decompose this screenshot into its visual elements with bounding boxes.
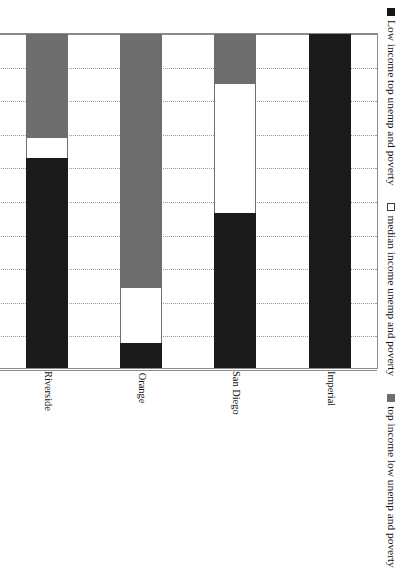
legend-swatch-gray-icon bbox=[387, 394, 395, 402]
segment-white bbox=[120, 288, 162, 344]
category-label-orange: Orange bbox=[137, 371, 148, 405]
bar-san-diego bbox=[214, 34, 256, 368]
segment-black bbox=[26, 158, 68, 368]
bar-riverside bbox=[26, 34, 68, 368]
legend-item-median-income: median income unemp and poverty bbox=[385, 203, 396, 376]
segment-gray bbox=[26, 34, 68, 138]
stacked-bar-chart-figure: Low income top unemp and poverty median … bbox=[0, 0, 406, 571]
segment-gray bbox=[214, 34, 256, 84]
rotated-figure-canvas: Low income top unemp and poverty median … bbox=[0, 0, 406, 571]
segment-black bbox=[309, 34, 351, 368]
legend-label-low-income: Low income top unemp and poverty bbox=[385, 20, 396, 185]
chart-legend: Low income top unemp and poverty median … bbox=[382, 8, 400, 564]
segment-gray bbox=[120, 34, 162, 288]
segment-white bbox=[214, 84, 256, 213]
segment-black bbox=[120, 343, 162, 368]
y-axis-category-labels: ImperialSan DiegoOrangeRiversideSo Cal bbox=[0, 371, 378, 405]
legend-item-low-income: Low income top unemp and poverty bbox=[385, 8, 396, 185]
bar-group bbox=[0, 34, 377, 368]
segment-black bbox=[214, 213, 256, 368]
plot-area bbox=[0, 33, 378, 369]
legend-label-median-income: median income unemp and poverty bbox=[385, 215, 396, 376]
legend-swatch-black-icon bbox=[387, 8, 395, 16]
legend-item-top-income: top income low unemp and poverty bbox=[385, 394, 396, 568]
bar-imperial bbox=[309, 34, 351, 368]
legend-swatch-white-icon bbox=[387, 203, 395, 211]
category-label-san-diego: San Diego bbox=[231, 371, 242, 405]
segment-white bbox=[26, 138, 68, 159]
category-label-riverside: Riverside bbox=[42, 371, 53, 405]
legend-label-top-income: top income low unemp and poverty bbox=[385, 406, 396, 568]
bar-orange bbox=[120, 34, 162, 368]
category-label-imperial: Imperial bbox=[325, 371, 336, 405]
